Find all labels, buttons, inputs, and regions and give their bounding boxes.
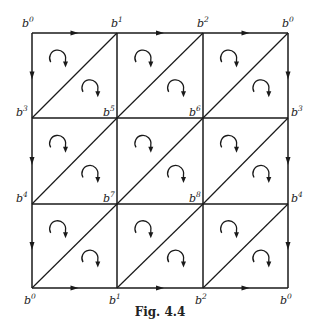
clockwise-arrowhead-icon xyxy=(63,232,68,238)
clockwise-arrow-icon xyxy=(168,165,184,177)
arrow-down-icon xyxy=(30,72,35,80)
vertex-index: 2 xyxy=(203,15,209,24)
vertex-index: 3 xyxy=(23,104,28,113)
clockwise-arrowhead-icon xyxy=(266,262,271,268)
clockwise-arrow-icon xyxy=(82,250,98,262)
clockwise-arrowhead-icon xyxy=(266,91,271,97)
diagonal-edge xyxy=(32,204,117,288)
vertex-index: 7 xyxy=(110,190,115,199)
vertex-index: 0 xyxy=(289,15,294,24)
clockwise-arrow-icon xyxy=(253,80,269,92)
clockwise-arrow-icon xyxy=(82,165,98,177)
clockwise-arrow-icon xyxy=(168,250,184,262)
clockwise-arrow-icon xyxy=(168,80,184,92)
vertex-label: b5 xyxy=(103,104,115,119)
triangulated-torus-diagram: b0b1b2b0b3b5b6b3b4b7b8b4b0b1b2b0 xyxy=(0,0,320,332)
arrow-right-icon xyxy=(156,286,164,291)
vertex-label: b2 xyxy=(197,15,209,30)
vertex-index: 3 xyxy=(298,104,303,113)
vertex-label: b1 xyxy=(111,15,123,30)
vertex-index: 1 xyxy=(116,292,121,301)
clockwise-arrowhead-icon xyxy=(95,262,100,268)
arrow-down-icon xyxy=(286,242,291,250)
clockwise-arrowhead-icon xyxy=(63,62,68,68)
vertex-index: 4 xyxy=(22,190,28,199)
clockwise-arrowhead-icon xyxy=(181,91,186,97)
clockwise-arrow-icon xyxy=(253,250,269,262)
vertex-index: 2 xyxy=(201,292,207,301)
diagonal-edge xyxy=(203,118,288,204)
vertex-label: b3 xyxy=(16,104,28,119)
clockwise-arrowhead-icon xyxy=(234,232,239,238)
arrow-right-icon xyxy=(71,286,79,291)
diagonal-edge xyxy=(203,204,288,288)
diagonal-edge xyxy=(203,33,288,118)
arrow-down-icon xyxy=(30,157,35,165)
clockwise-arrow-icon xyxy=(50,135,66,147)
clockwise-arrowhead-icon xyxy=(63,147,68,153)
arrow-down-icon xyxy=(286,157,291,165)
vertex-label: b4 xyxy=(291,190,303,205)
clockwise-arrowhead-icon xyxy=(95,91,100,97)
vertex-label: b7 xyxy=(103,190,115,205)
clockwise-arrowhead-icon xyxy=(148,147,153,153)
vertex-index: 5 xyxy=(110,104,115,113)
clockwise-arrow-icon xyxy=(135,221,151,233)
clockwise-arrow-icon xyxy=(221,221,237,233)
clockwise-arrowhead-icon xyxy=(181,262,186,268)
arrow-right-icon xyxy=(242,31,250,36)
diagonal-edges xyxy=(32,33,288,288)
diagonal-edge xyxy=(117,204,203,288)
clockwise-arrowhead-icon xyxy=(234,62,239,68)
arrow-down-icon xyxy=(286,72,291,80)
vertex-label: b0 xyxy=(282,15,294,30)
clockwise-arrow-icon xyxy=(50,221,66,233)
clockwise-arrowhead-icon xyxy=(95,177,100,183)
vertex-index: 4 xyxy=(297,190,303,199)
clockwise-arrow-icon xyxy=(50,50,66,62)
arrow-right-icon xyxy=(242,286,250,291)
vertex-label: b3 xyxy=(291,104,303,119)
vertex-label: b4 xyxy=(16,190,28,205)
clockwise-arrow-icon xyxy=(221,135,237,147)
clockwise-arrowhead-icon xyxy=(181,177,186,183)
vertex-label: b6 xyxy=(189,104,201,119)
vertex-index: 8 xyxy=(196,190,201,199)
arrow-right-icon xyxy=(156,31,164,36)
vertex-label: b8 xyxy=(189,190,201,205)
clockwise-arrowhead-icon xyxy=(148,232,153,238)
vertex-index: 1 xyxy=(118,15,123,24)
figure-caption: Fig. 4.4 xyxy=(0,305,320,319)
arrow-right-icon xyxy=(71,31,79,36)
clockwise-arrowhead-icon xyxy=(148,62,153,68)
vertex-index: 6 xyxy=(196,104,201,113)
clockwise-arrow-icon xyxy=(135,50,151,62)
clockwise-arrowhead-icon xyxy=(266,177,271,183)
clockwise-arrow-icon xyxy=(221,50,237,62)
clockwise-arrowhead-icon xyxy=(234,147,239,153)
vertex-label: b0 xyxy=(22,15,34,30)
vertex-index: 0 xyxy=(287,292,292,301)
clockwise-arrow-icon xyxy=(135,135,151,147)
arrow-down-icon xyxy=(30,242,35,250)
vertex-index: 0 xyxy=(29,15,34,24)
clockwise-arrow-icon xyxy=(82,80,98,92)
clockwise-arrow-icon xyxy=(253,165,269,177)
vertex-index: 0 xyxy=(31,292,36,301)
